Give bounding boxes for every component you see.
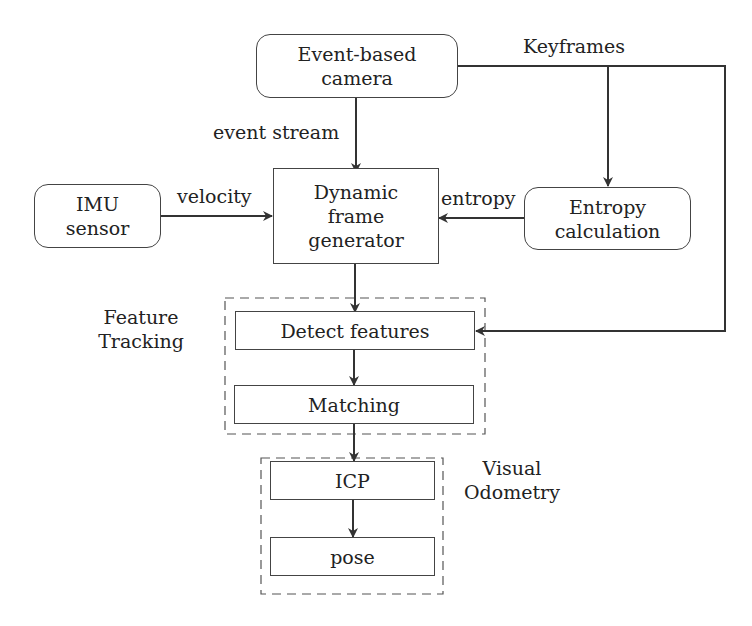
visual-odometry-line2: Odometry	[457, 480, 567, 504]
velocity-label: velocity	[177, 184, 252, 208]
visual-odometry-line1: Visual	[457, 456, 567, 480]
event-camera-line1: Event-based	[298, 42, 417, 66]
imu-sensor-node: IMU sensor	[34, 184, 161, 248]
feature-tracking-line2: Tracking	[86, 329, 196, 353]
detect-features-label: Detect features	[280, 319, 429, 343]
generator-line1: Dynamic	[314, 180, 398, 204]
generator-line3: generator	[308, 228, 403, 252]
feature-tracking-line1: Feature	[86, 305, 196, 329]
event-camera-line2: camera	[321, 66, 393, 90]
icp-label: ICP	[335, 469, 370, 493]
entropy-edge-label: entropy	[441, 186, 516, 210]
entropy-line2: calculation	[555, 219, 661, 243]
entropy-line1: Entropy	[569, 195, 646, 219]
feature-tracking-label: Feature Tracking	[86, 305, 196, 353]
event-stream-label: event stream	[213, 120, 339, 144]
detect-features-node: Detect features	[235, 311, 475, 350]
imu-line2: sensor	[66, 216, 130, 240]
matching-node: Matching	[234, 385, 474, 424]
event-camera-node: Event-based camera	[256, 34, 458, 98]
visual-odometry-label: Visual Odometry	[457, 456, 567, 504]
matching-label: Matching	[308, 393, 400, 417]
icp-node: ICP	[270, 461, 435, 500]
dynamic-frame-generator-node: Dynamic frame generator	[273, 168, 439, 264]
imu-line1: IMU	[76, 192, 119, 216]
generator-line2: frame	[328, 204, 385, 228]
pose-label: pose	[330, 545, 375, 569]
pose-node: pose	[270, 537, 435, 576]
edge-keyframes	[457, 66, 608, 186]
entropy-calculation-node: Entropy calculation	[524, 187, 691, 250]
keyframes-label: Keyframes	[523, 34, 625, 58]
